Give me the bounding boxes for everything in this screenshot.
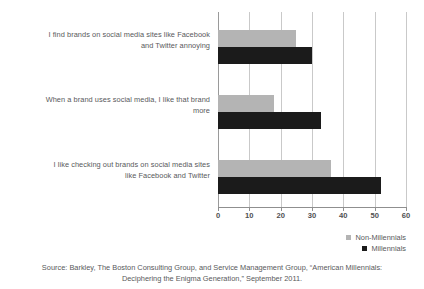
- legend-item-millennials[interactable]: Millennials: [346, 243, 406, 254]
- source-caption: Source: Barkley, The Boston Consulting G…: [12, 262, 412, 284]
- x-tick-label-30: 30: [308, 211, 316, 221]
- legend-label-1: Millennials: [371, 243, 406, 254]
- category-label-0-line-0: I find brands on social media sites like…: [49, 30, 210, 39]
- x-tick-label-20: 20: [276, 211, 284, 221]
- category-label-1-line-0: When a brand uses social media, I like t…: [46, 95, 210, 104]
- bar-millennials-1: [218, 112, 321, 129]
- category-label-0: I find brands on social media sites like…: [14, 30, 210, 51]
- category-label-0-line-1: and Twitter annoying: [141, 41, 210, 50]
- legend-label-0: Non-Millennials: [355, 232, 406, 243]
- chart-legend: Non-MillennialsMillennials: [346, 232, 406, 254]
- bar-non-millennials-1: [218, 95, 274, 112]
- bar-millennials-0: [218, 47, 312, 64]
- source-line-2: Deciphering the Enigma Generation,” Sept…: [12, 273, 412, 284]
- category-label-1-line-1: more: [193, 106, 210, 115]
- x-tick-label-50: 50: [370, 211, 378, 221]
- bar-non-millennials-0: [218, 30, 296, 47]
- x-tick-label-40: 40: [339, 211, 347, 221]
- legend-swatch-icon-1: [362, 246, 367, 251]
- x-tick-label-60: 60: [402, 211, 410, 221]
- category-label-2: I like checking out brands on social med…: [14, 160, 210, 181]
- bar-non-millennials-2: [218, 160, 331, 177]
- category-label-1: When a brand uses social media, I like t…: [14, 95, 210, 116]
- bar-millennials-2: [218, 177, 381, 194]
- x-tick-label-10: 10: [245, 211, 253, 221]
- chart-figure: I find brands on social media sites like…: [0, 0, 424, 289]
- plot-area: [218, 12, 406, 207]
- x-tick-label-0: 0: [216, 211, 220, 221]
- category-labels: I find brands on social media sites like…: [14, 12, 210, 207]
- source-line-1: Source: Barkley, The Boston Consulting G…: [12, 262, 412, 273]
- category-label-2-line-0: I like checking out brands on social med…: [54, 160, 210, 169]
- gridline-60: [406, 12, 407, 207]
- category-label-2-line-1: like Facebook and Twitter: [125, 171, 210, 180]
- legend-item-non-millennials[interactable]: Non-Millennials: [346, 232, 406, 243]
- legend-swatch-icon-0: [346, 235, 351, 240]
